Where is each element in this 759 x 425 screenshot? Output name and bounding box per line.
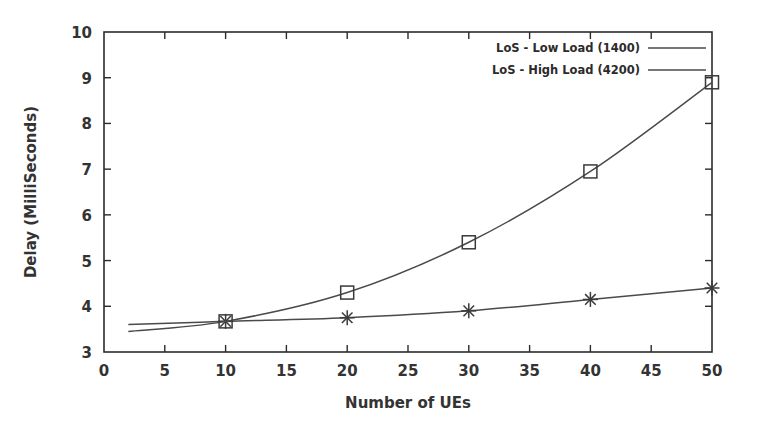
y-tick-label: 5 — [82, 253, 92, 271]
legend-label: LoS - High Load (4200) — [492, 63, 640, 77]
y-tick-label: 8 — [82, 115, 92, 133]
x-tick-label: 25 — [398, 362, 419, 380]
line-chart: 05101520253035404550 345678910 Number of… — [0, 0, 759, 425]
marker-star — [705, 281, 720, 296]
x-tick-label: 20 — [337, 362, 358, 380]
marker-star — [340, 310, 355, 325]
x-tick-label: 10 — [215, 362, 236, 380]
x-tick-label: 45 — [641, 362, 662, 380]
marker-star — [461, 303, 476, 318]
y-tick-label: 3 — [82, 344, 92, 362]
x-tick-label: 35 — [519, 362, 540, 380]
y-axis-title: Delay (MilliSeconds) — [22, 106, 40, 278]
x-tick-label: 0 — [99, 362, 109, 380]
chart-figure: 05101520253035404550 345678910 Number of… — [0, 0, 759, 425]
y-tick-label: 9 — [82, 70, 92, 88]
y-tick-label: 6 — [82, 207, 92, 225]
x-tick-label: 30 — [458, 362, 479, 380]
y-tick-label: 4 — [82, 298, 92, 316]
x-tick-label: 15 — [276, 362, 297, 380]
x-tick-label: 40 — [580, 362, 601, 380]
x-tick-label: 5 — [160, 362, 170, 380]
x-axis-title: Number of UEs — [345, 394, 471, 412]
marker-star — [583, 292, 598, 307]
y-tick-label: 10 — [71, 24, 92, 42]
legend-label: LoS - Low Load (1400) — [496, 41, 640, 55]
x-tick-label: 50 — [702, 362, 723, 380]
y-tick-label: 7 — [82, 161, 92, 179]
